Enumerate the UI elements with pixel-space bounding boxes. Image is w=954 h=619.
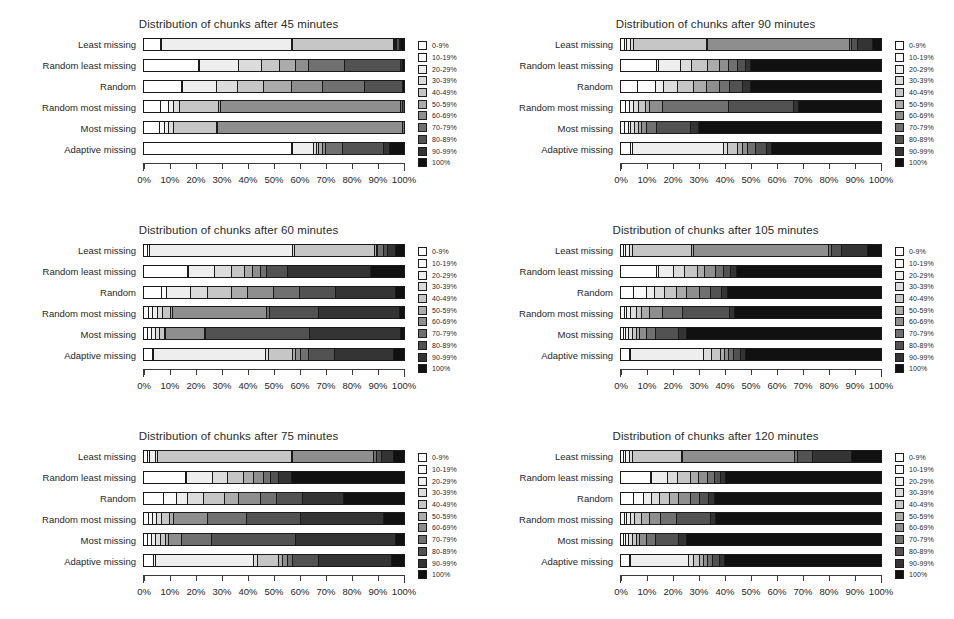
x-axis: 0%10%20%30%40%50%60%70%80%90%100% (143, 575, 405, 583)
legend-item: 80-89% (895, 340, 953, 352)
axis-tick (404, 164, 405, 169)
bar-segment (144, 39, 161, 50)
axis-tick (222, 370, 223, 375)
bar-segment (678, 81, 694, 92)
bar-segment (384, 513, 404, 524)
bar-segment (301, 513, 384, 524)
bar-segment (303, 493, 345, 504)
bar-segment (296, 60, 309, 71)
axis-tick (751, 370, 752, 375)
bar-row: Random (620, 80, 882, 93)
bar-segment (401, 328, 404, 339)
bar-row: Random most missing (143, 306, 405, 319)
bar-segment (228, 472, 244, 483)
legend-item: 0-9% (418, 40, 476, 52)
bar-row: Random most missing (143, 512, 405, 525)
legend-label: 10-19% (909, 466, 934, 473)
legend-item: 70-79% (895, 328, 953, 340)
legend-swatch-icon (418, 123, 427, 132)
bar-segment (309, 60, 345, 71)
bar-segment (394, 451, 404, 462)
row-label: Random (100, 493, 136, 504)
stacked-bar (143, 492, 405, 505)
legend-label: 70-79% (432, 536, 457, 543)
axis-tick-label: 50% (264, 174, 283, 185)
axis-tick-label: 60% (290, 174, 309, 185)
bar-segment (634, 287, 647, 298)
axis-tick-label: 20% (186, 380, 205, 391)
axis-tick (777, 576, 778, 581)
axis-tick-label: 60% (767, 174, 786, 185)
bar-segment (247, 513, 302, 524)
axis-tick (300, 576, 301, 581)
legend-label: 50-59% (909, 307, 934, 314)
row-label: Random least missing (520, 266, 613, 277)
legend-swatch-icon (895, 135, 904, 144)
legend-swatch-icon (895, 247, 904, 256)
chart-panel: Distribution of chunks after 60 minutesL… (0, 206, 477, 412)
bar-segment (720, 60, 729, 71)
bar-segment (253, 266, 261, 277)
bar-segment (254, 472, 263, 483)
legend-label: 100% (909, 571, 927, 578)
bar-segment (725, 555, 881, 566)
bar-segment (232, 266, 245, 277)
bar-segment (174, 513, 208, 524)
legend-item: 0-9% (895, 40, 953, 52)
row-label: Least missing (78, 245, 136, 256)
bar-segment (756, 143, 766, 154)
bar-segment (293, 143, 314, 154)
axis-tick-label: 60% (290, 380, 309, 391)
legend-item: 90-99% (895, 145, 953, 157)
legend-item: 90-99% (418, 557, 476, 569)
axis-tick (300, 370, 301, 375)
legend-swatch-icon (895, 259, 904, 268)
legend-item: 100% (895, 363, 953, 375)
bar-row: Least missing (143, 244, 405, 257)
bar-segment (403, 101, 404, 112)
legend-label: 90-99% (909, 354, 934, 361)
axis-tick (300, 164, 301, 169)
bar-segment (642, 307, 650, 318)
bar-segment (716, 266, 724, 277)
axis-tick-label: 50% (264, 586, 283, 597)
bar-segment (813, 451, 852, 462)
legend-label: 0-9% (432, 454, 449, 461)
chart-panel: Distribution of chunks after 75 minutesL… (0, 412, 477, 619)
bar-segment (144, 349, 153, 360)
axis-tick-label: 30% (689, 586, 708, 597)
stacked-bar (143, 554, 405, 567)
stacked-bar (143, 306, 405, 319)
legend-label: 40-49% (909, 295, 934, 302)
stacked-bar (620, 327, 882, 340)
legend-swatch-icon (418, 364, 427, 373)
x-axis: 0%10%20%30%40%50%60%70%80%90%100% (620, 575, 882, 583)
bar-segment (746, 349, 881, 360)
legend-swatch-icon (895, 294, 904, 303)
figure-grid: Distribution of chunks after 45 minutesL… (0, 0, 954, 619)
axis-tick (404, 370, 405, 375)
legend-item: 50-59% (418, 98, 476, 110)
row-label: Random least missing (43, 472, 136, 483)
row-label: Random most missing (519, 513, 613, 524)
axis-tick (647, 370, 648, 375)
legend-swatch-icon (418, 41, 427, 50)
axis-tick-label: 70% (316, 586, 335, 597)
legend-item: 80-89% (418, 134, 476, 146)
bar-segment (212, 534, 297, 545)
axis-tick-label: 80% (819, 174, 838, 185)
bar-segment (245, 266, 253, 277)
axis-tick (725, 370, 726, 375)
bar-segment (300, 287, 336, 298)
legend-label: 50-59% (432, 513, 457, 520)
bar-segment (218, 122, 403, 133)
bar-segment (647, 122, 657, 133)
bar-segment (248, 287, 274, 298)
axis-tick-label: 80% (342, 174, 361, 185)
legend-swatch-icon (418, 271, 427, 280)
legend: 0-9%10-19%20-29%30-39%40-49%50-59%60-69%… (418, 246, 476, 375)
legend-label: 100% (432, 365, 450, 372)
axis-tick-label: 90% (368, 174, 387, 185)
bar-segment (665, 287, 677, 298)
bar-segment (144, 472, 186, 483)
